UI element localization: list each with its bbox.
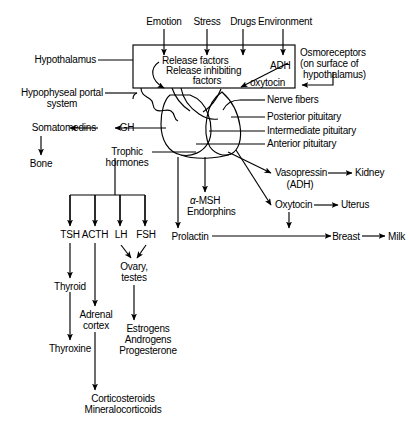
arrow-fsh-ovary	[137, 245, 146, 258]
label-trophic: Trophic	[111, 146, 143, 158]
label-estrogens: Estrogens	[126, 323, 169, 335]
label-release-inhibiting-factors: factors	[193, 75, 222, 87]
label-bone: Bone	[30, 158, 53, 170]
label-oxytocin-posterior: Oxytocin	[275, 199, 312, 211]
label-adrenal-cortex: cortex	[83, 320, 109, 332]
endocrine-flow-diagram: Emotion Stress Drugs Environment Hypotha…	[0, 0, 410, 436]
label-acth: ACTH	[82, 229, 108, 241]
label-corticosteroids: Corticosteroids	[91, 393, 155, 405]
alpha-msh-rest: -MSH	[196, 195, 221, 206]
label-uterus: Uterus	[341, 199, 369, 211]
label-posterior-pituitary: Posterior pituitary	[267, 111, 341, 123]
label-ovary: Ovary,	[120, 261, 148, 273]
input-label-environment: Environment	[258, 16, 312, 28]
label-fsh: FSH	[136, 229, 155, 241]
label-adrenal: Adrenal	[79, 309, 112, 321]
label-oxytocin-hypothalamic: oxytocin	[250, 77, 285, 89]
label-adh: ADH	[270, 60, 291, 72]
label-tsh: TSH	[60, 229, 79, 241]
label-kidney: Kidney	[355, 167, 384, 179]
label-hypophyseal-portal: Hypophyseal portal	[21, 87, 103, 99]
arrow-oxytocin	[236, 150, 271, 205]
label-somatomedins: Somatomedins	[32, 122, 96, 134]
label-gh: GH	[120, 122, 135, 134]
input-label-emotion: Emotion	[146, 16, 181, 28]
label-testes: testes	[121, 272, 146, 284]
label-prolactin: Prolactin	[171, 231, 208, 243]
label-hypothalamus: Hypothalamus	[34, 54, 96, 66]
input-label-stress: Stress	[193, 16, 220, 28]
arrow-vasopressin	[228, 152, 271, 173]
label-milk: Milk	[388, 231, 405, 243]
label-nerve-fibers: Nerve fibers	[267, 94, 319, 106]
label-osmoreceptors-line2: (on surface of	[300, 58, 358, 70]
label-endorphins: Endorphins	[187, 206, 236, 218]
label-thyroxine: Thyroxine	[49, 343, 91, 355]
label-thyroid: Thyroid	[54, 281, 86, 293]
label-anterior-pituitary: Anterior pituitary	[267, 138, 336, 150]
anterior-lobe-outline	[161, 95, 211, 155]
label-mineralocorticoids: Mineralocorticoids	[85, 404, 162, 416]
label-progesterone: Progesterone	[119, 345, 177, 357]
hypophyseal-portal-vessels	[141, 88, 178, 121]
input-label-drugs: Drugs	[230, 16, 256, 28]
label-adh-parenthetical: (ADH)	[287, 179, 314, 191]
posterior-lobe-outline	[206, 92, 241, 155]
label-intermediate-pituitary: Intermediate pituitary	[267, 125, 356, 137]
label-trophic-hormones: hormones	[106, 157, 149, 169]
stalk-left-edge	[172, 88, 190, 111]
label-portal-system: system	[47, 98, 77, 110]
label-lh: LH	[115, 229, 127, 241]
label-osmoreceptors-line3: hypothalamus)	[303, 69, 366, 81]
leader-nerve-fibers-hook	[223, 100, 240, 110]
label-alpha-msh: α-MSH	[190, 195, 220, 207]
label-vasopressin: Vasopressin	[275, 167, 327, 179]
arrow-lh-ovary	[121, 245, 131, 258]
label-breast: Breast	[332, 231, 360, 243]
portal-entry	[133, 93, 137, 99]
label-osmoreceptors: Osmoreceptors	[300, 47, 366, 59]
label-androgens: Androgens	[125, 334, 172, 346]
